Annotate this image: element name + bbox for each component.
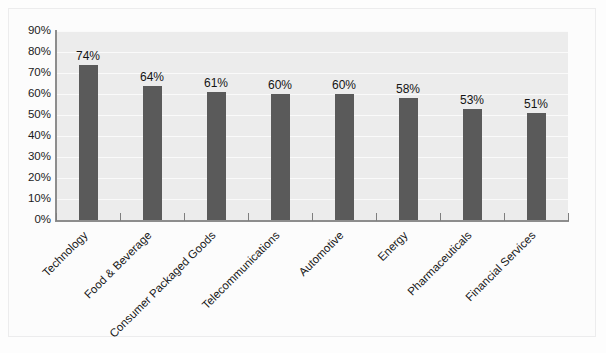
y-axis-tick-label: 10% <box>5 193 51 205</box>
y-axis-tick-label: 50% <box>5 109 51 121</box>
bar[interactable] <box>335 94 354 220</box>
gridline <box>56 136 568 137</box>
y-axis-tick-label: 60% <box>5 88 51 100</box>
bar-value-label: 53% <box>442 94 502 106</box>
bar-value-label: 64% <box>122 71 182 83</box>
gridlines <box>56 31 568 220</box>
bar[interactable] <box>79 65 98 220</box>
y-axis-tick-label: 30% <box>5 151 51 163</box>
bar[interactable] <box>463 109 482 220</box>
gridline <box>56 157 568 158</box>
gridline <box>56 178 568 179</box>
bar-value-label: 60% <box>250 79 310 91</box>
bar-value-label: 58% <box>378 83 438 95</box>
y-axis-tick-label: 0% <box>5 214 51 226</box>
gridline <box>56 31 568 32</box>
gridline <box>56 115 568 116</box>
chart-container: 0%10%20%30%40%50%60%70%80%90% 74%64%61%6… <box>0 0 606 353</box>
x-axis-tick <box>184 213 185 221</box>
x-axis-tick <box>248 213 249 221</box>
bar[interactable] <box>271 94 290 220</box>
y-axis-tick-label: 70% <box>5 67 51 79</box>
bar-value-label: 74% <box>58 50 118 62</box>
bar[interactable] <box>207 92 226 220</box>
x-axis-tick <box>56 213 57 221</box>
bar-value-label: 51% <box>506 98 566 110</box>
x-axis-tick <box>376 213 377 221</box>
x-axis-tick <box>440 213 441 221</box>
gridline <box>56 52 568 53</box>
bar[interactable] <box>527 113 546 220</box>
gridline <box>56 199 568 200</box>
bar[interactable] <box>143 86 162 220</box>
x-axis-tick <box>312 213 313 221</box>
y-axis-tick-label: 40% <box>5 130 51 142</box>
bar-value-label: 60% <box>314 79 374 91</box>
y-axis-tick-label: 80% <box>5 46 51 58</box>
y-axis-tick-label: 90% <box>5 25 51 37</box>
bar-value-label: 61% <box>186 77 246 89</box>
x-axis-tick <box>120 213 121 221</box>
x-axis-tick <box>568 213 569 221</box>
bar[interactable] <box>399 98 418 220</box>
y-axis-tick-label: 20% <box>5 172 51 184</box>
plot-area <box>56 31 568 220</box>
y-axis-line <box>55 30 57 221</box>
x-axis-tick <box>504 213 505 221</box>
